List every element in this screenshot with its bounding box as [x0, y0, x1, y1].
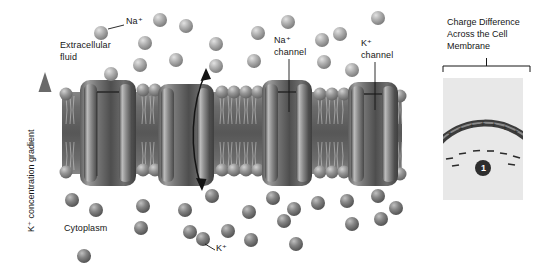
svg-text:+: + — [491, 120, 496, 130]
step-badge-number: 1 — [479, 162, 488, 174]
svg-text:+: + — [447, 129, 452, 139]
inset-bracket — [443, 66, 530, 72]
extracellular-fluid-label-line1: Extracellular — [60, 40, 111, 51]
cytoplasm-ions — [65, 189, 403, 263]
cell-membrane-ion-channel-diagram: + + + + + + + K⁺ concentration gradient … — [0, 0, 544, 266]
k-channel-protein — [348, 82, 398, 186]
concentration-gradient-arrow — [39, 72, 52, 236]
svg-text:+: + — [513, 127, 518, 137]
charge-difference-inset: + + + + + + + — [436, 58, 532, 200]
na-channel-label-line1: Na⁺ — [274, 35, 291, 46]
inset-title-line2: Across the Cell — [447, 29, 508, 41]
na-ion-leader — [108, 25, 124, 29]
k-channel-label-line2: channel — [361, 50, 393, 61]
na-ion-label: Na⁺ — [126, 16, 143, 27]
svg-text:+: + — [502, 123, 507, 133]
extracellular-fluid-label-line2: fluid — [60, 52, 77, 63]
svg-text:+: + — [458, 124, 463, 134]
k-concentration-gradient-label: K⁺ concentration gradient — [26, 129, 36, 232]
k-ion-label: K⁺ — [216, 243, 227, 254]
channel-protein-2 — [158, 84, 214, 186]
inset-title-line1: Charge Difference — [447, 17, 520, 29]
k-channel-label-line1: K⁺ — [361, 38, 372, 49]
cell-membrane — [60, 80, 407, 186]
k-ion-leader — [205, 244, 215, 250]
na-channel-protein — [262, 80, 312, 186]
cytoplasm-label: Cytoplasm — [64, 223, 107, 234]
svg-text:+: + — [469, 121, 474, 131]
channel-protein-1 — [80, 80, 136, 186]
inset-title-line3: Membrane — [447, 41, 490, 53]
na-channel-label-line2: channel — [274, 47, 306, 58]
svg-text:+: + — [480, 119, 485, 129]
inset-background — [443, 78, 523, 200]
